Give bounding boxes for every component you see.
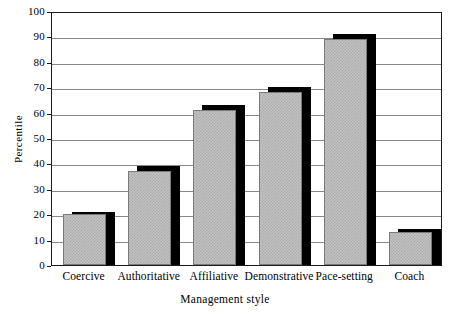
gridline: [52, 115, 441, 116]
y-tick-label: 10: [1, 235, 45, 246]
bar-face: [324, 39, 367, 265]
bar: [324, 34, 376, 265]
x-axis-title: Management style: [0, 293, 450, 305]
y-tick-label: 100: [1, 6, 45, 17]
y-tick-label: 90: [1, 31, 45, 42]
x-tick-label: Coach: [349, 270, 450, 282]
bar: [128, 166, 180, 265]
gridline: [52, 38, 441, 39]
y-tick-label: 80: [1, 57, 45, 68]
bar-face: [63, 214, 106, 265]
bar: [193, 105, 245, 265]
bar: [63, 212, 115, 265]
y-tick-mark: [47, 266, 51, 267]
bar: [389, 229, 441, 265]
bar-face: [128, 171, 171, 265]
gridline: [52, 140, 441, 141]
gridline: [52, 191, 441, 192]
y-axis-title: Percentile: [12, 89, 24, 189]
y-tick-label: 20: [1, 209, 45, 220]
gridline: [52, 89, 441, 90]
bar-chart-figure: Percentile 0102030405060708090100 Coerci…: [0, 0, 450, 314]
bar-face: [259, 92, 302, 265]
bar-face: [193, 110, 236, 265]
gridline: [52, 64, 441, 65]
gridline: [52, 165, 441, 166]
bar: [259, 87, 311, 265]
bar-face: [389, 232, 432, 265]
plot-area: [51, 12, 442, 266]
